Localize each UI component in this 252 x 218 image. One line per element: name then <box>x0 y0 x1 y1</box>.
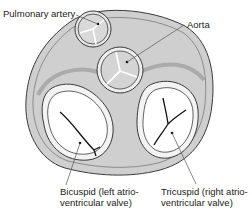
label-text-line2: ventricular valve) <box>161 197 248 208</box>
label-text-line1: Bicuspid (left atrio- <box>60 186 139 197</box>
pulmonary-valve <box>75 11 111 47</box>
label-text-line2: ventricular valve) <box>60 197 139 208</box>
label-tricuspid: Tricuspid (right atrio- ventricular valv… <box>161 186 248 208</box>
aortic-valve <box>97 47 143 93</box>
heart-valves-diagram: Pulmonary artery Aorta Bicuspid (left at… <box>0 0 252 218</box>
label-aorta: Aorta <box>187 19 210 30</box>
label-bicuspid: Bicuspid (left atrio- ventricular valve) <box>60 186 139 208</box>
label-text: Pulmonary artery <box>3 8 75 19</box>
label-text: Aorta <box>187 19 210 30</box>
label-pulmonary-artery: Pulmonary artery <box>3 8 75 19</box>
label-text-line1: Tricuspid (right atrio- <box>161 186 248 197</box>
